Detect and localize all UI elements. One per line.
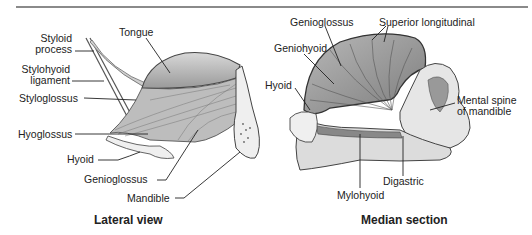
label-genioglossus-median: Genioglossus: [290, 17, 354, 28]
label-stylohyoid-ligament: Stylohyoid ligament: [10, 64, 70, 86]
label-styloglossus: Styloglossus: [19, 93, 78, 104]
label-hyoglossus: Hyoglossus: [18, 129, 72, 140]
label-mandible: Mandible: [127, 193, 170, 204]
label-text: of mandible: [457, 106, 517, 117]
label-mental-spine: Mental spine of mandible: [457, 95, 517, 117]
label-text: process: [22, 44, 72, 55]
label-mylohyoid: Mylohyoid: [337, 190, 384, 201]
label-hyoid-median: Hyoid: [265, 80, 292, 91]
caption-median-section: Median section: [361, 213, 448, 227]
label-styloid-process: Styloid process: [22, 33, 72, 55]
label-genioglossus: Genioglossus: [84, 174, 148, 185]
label-text: ligament: [10, 75, 70, 86]
label-tongue: Tongue: [119, 27, 153, 38]
label-superior-longitudinal: Superior longitudinal: [379, 17, 475, 28]
caption-lateral-view: Lateral view: [94, 213, 163, 227]
label-hyoid: Hyoid: [67, 154, 94, 165]
label-digastric: Digastric: [383, 176, 424, 187]
anatomy-illustration: [0, 0, 532, 235]
label-geniohyoid: Geniohyoid: [274, 43, 327, 54]
